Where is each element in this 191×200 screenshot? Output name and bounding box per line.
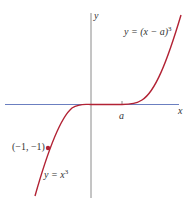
- y-axis-label: y: [94, 11, 98, 21]
- curve-label-cubic: y = x3: [44, 170, 68, 180]
- point-label: (−1, −1): [12, 142, 45, 152]
- x-axis-label: x: [178, 106, 182, 116]
- x-tick-label-a: a: [119, 111, 124, 121]
- point-neg1-neg1: [46, 146, 50, 150]
- cubic-translation-figure: y x a y = (x − a)3 (−1, −1) y = x3: [0, 0, 191, 200]
- curve-label-shifted: y = (x − a)3: [124, 27, 172, 37]
